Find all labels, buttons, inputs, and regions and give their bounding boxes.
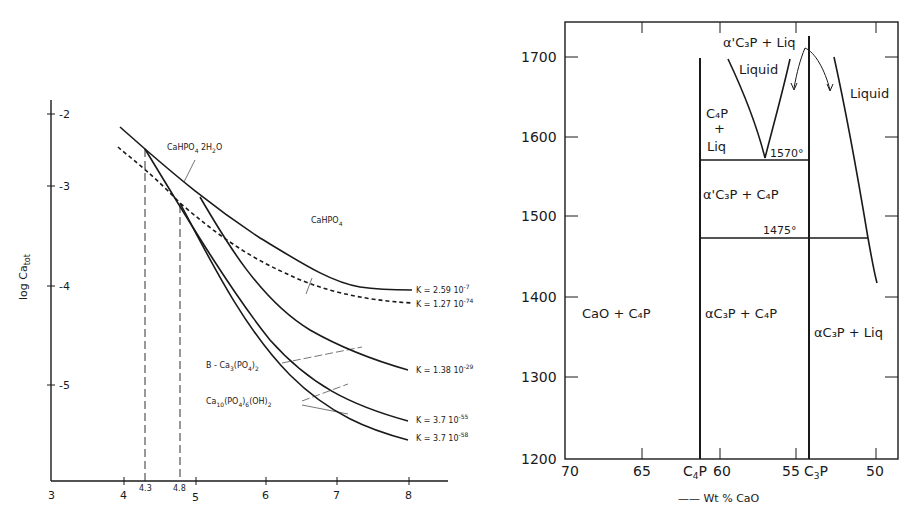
region-c4p-liq-3: Liq <box>707 139 726 154</box>
curve-hap-55 <box>145 149 408 421</box>
right-xtick: 70 <box>561 463 579 479</box>
region-liquid-right: Liquid <box>850 86 889 101</box>
right-xtick: 55 <box>782 463 800 479</box>
left-ytick: -5 <box>59 379 70 392</box>
right-ytick: 1700 <box>521 49 557 65</box>
region-liquid-v: Liquid <box>739 62 778 77</box>
region-cao-c4p: CaO + C₄P <box>582 306 651 321</box>
k-label-dcpa: K = 1.27 10-74 <box>416 297 474 309</box>
label-dcpd: CaHPO4 2H2O <box>167 143 222 154</box>
arrow-left <box>794 48 805 88</box>
region-alpha-c3p-liq: αC₃P + Liq <box>814 325 883 340</box>
left-xtick: 7 <box>333 489 340 502</box>
right-ytick: 1600 <box>521 129 557 145</box>
region-c4p-liq-1: C₄P <box>706 106 728 121</box>
right-ytick: 1500 <box>521 208 557 224</box>
left-ytick: -3 <box>59 180 70 193</box>
left-xtick: 5 <box>192 491 199 504</box>
left-y-label: log Catot <box>17 254 32 300</box>
curve-dcpa <box>118 147 412 303</box>
region-alpha-prime-c3p-liq: α'C₃P + Liq <box>723 35 796 50</box>
left-ytick: -2 <box>59 108 70 121</box>
left-ytick: -4 <box>59 280 70 293</box>
arrow-right-head-icon <box>827 84 833 91</box>
right-plot-frame <box>565 22 898 459</box>
label-hap: Ca10(PO4)6(OH)2 <box>206 397 272 408</box>
right-xtick: 65 <box>633 463 651 479</box>
k-label-hap-55: K = 3.7 10-55 <box>416 413 468 425</box>
label-tcp: B - Ca3(PO4)2 <box>206 361 259 372</box>
curve-dcpd <box>120 127 412 290</box>
svg-text:log Catot: log Catot <box>17 254 32 300</box>
right-x-ticks: 70 65 C4P 60 55 C3P 50 <box>561 22 884 481</box>
leader-tcp <box>282 347 362 363</box>
left-xtick: 4 <box>120 489 127 502</box>
curve-tcp <box>200 197 408 370</box>
leader-dcpa <box>306 278 312 294</box>
isotherm-1570-label: 1570° <box>770 147 804 160</box>
left-xtick: 6 <box>262 489 269 502</box>
left-chart: -2 -3 -4 -5 log Catot 3 4 5 6 7 8 4.3 4.… <box>17 100 474 504</box>
k-label-tcp: K = 1.38 10-29 <box>416 363 474 375</box>
left-xtick: 3 <box>48 489 55 502</box>
left-xtick: 8 <box>405 489 412 502</box>
right-xtick: 60 <box>713 463 731 479</box>
isotherm-1475-label: 1475° <box>763 224 797 237</box>
k-label-dcpd: K = 2.59 10-7 <box>416 283 470 295</box>
leader-dcpd <box>184 160 195 182</box>
right-xtick: 50 <box>866 463 884 479</box>
figure-canvas: -2 -3 -4 -5 log Catot 3 4 5 6 7 8 4.3 4.… <box>0 0 909 517</box>
region-alpha-prime-c3p-c4p: α'C₃P + C₄P <box>703 187 779 202</box>
marker-4-8-label: 4.8 <box>173 484 186 493</box>
right-chart: 1700 1600 1500 1400 1300 1200 70 65 C4P … <box>521 22 898 505</box>
right-xtick-c3p: C3P <box>804 463 828 481</box>
leader-hap-2 <box>302 405 348 414</box>
right-ytick: 1400 <box>521 289 557 305</box>
label-dcpa: CaHPO4 <box>311 216 343 227</box>
right-x-label: —— Wt % CaO <box>678 492 760 505</box>
region-c4p-liq-2: + <box>714 121 725 136</box>
k-label-hap-58: K = 3.7 10-58 <box>416 431 468 443</box>
right-xtick-c4p: C4P <box>683 463 707 481</box>
right-ytick: 1200 <box>521 451 557 467</box>
marker-4-3-label: 4.3 <box>139 484 152 493</box>
right-ytick: 1300 <box>521 369 557 385</box>
region-alpha-c3p-c4p: αC₃P + C₄P <box>705 306 777 321</box>
